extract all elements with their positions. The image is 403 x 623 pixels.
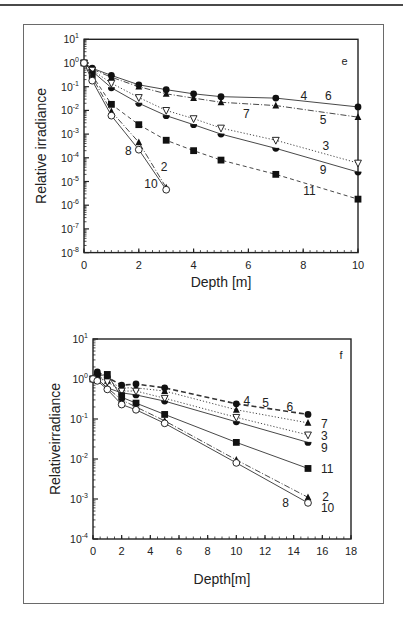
x-tick-label: 16 [316, 545, 328, 557]
x-tick-label: 18 [345, 545, 357, 557]
x-tick-label: 2 [119, 545, 125, 557]
y-tick-label: 10-3 [70, 492, 88, 505]
plot-area [93, 339, 351, 539]
curve-label: 6 [287, 400, 294, 414]
curve-label: 9 [321, 441, 328, 455]
y-axis-label: Relativeirradiance [47, 383, 63, 495]
y-tick-label: 10-4 [70, 532, 88, 545]
x-tick-label: 4 [147, 545, 153, 557]
x-tick-label: 14 [288, 545, 300, 557]
y-tick-label: 10-1 [70, 412, 88, 425]
y-tick-label: 101 [72, 332, 88, 345]
x-tick-label: 8 [205, 545, 211, 557]
curve-label: f [340, 349, 344, 361]
curve-label: 5 [262, 396, 269, 410]
y-tick-label: 100 [72, 372, 88, 385]
x-axis-label: Depth[m] [194, 571, 251, 587]
x-tick-label: 10 [230, 545, 242, 557]
x-tick-label: 12 [259, 545, 271, 557]
x-tick-label: 6 [176, 545, 182, 557]
curve-label: 11 [321, 462, 334, 476]
y-tick-label: 10-2 [70, 452, 88, 465]
chart-panel-f: 10-410-310-210-1100101024681012141618Dep… [0, 0, 403, 623]
curve-label: 4 [244, 394, 251, 408]
x-tick-label: 0 [90, 545, 96, 557]
curve-label: 10 [321, 501, 335, 515]
curve-label: 8 [282, 496, 289, 510]
